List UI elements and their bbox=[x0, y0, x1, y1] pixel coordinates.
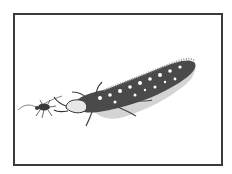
illustration bbox=[0, 0, 232, 174]
larva-illustration bbox=[54, 59, 196, 126]
